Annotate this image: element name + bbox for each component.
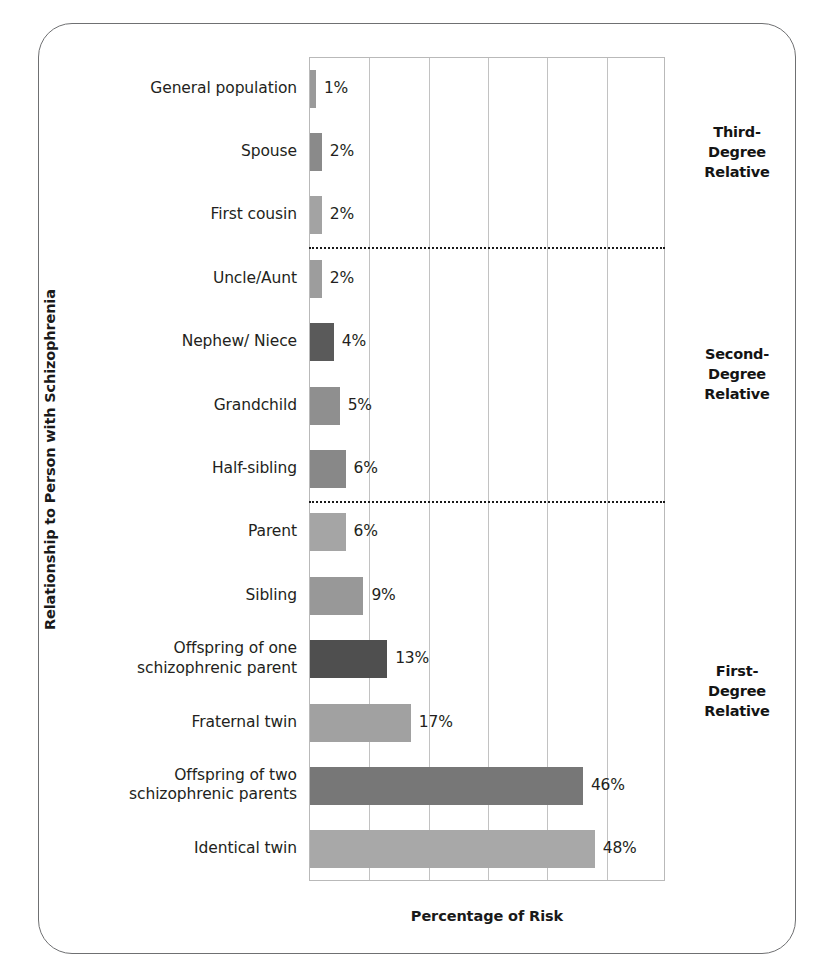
bar xyxy=(310,133,322,171)
group-label-line: Second- xyxy=(678,344,796,364)
bar xyxy=(310,323,334,361)
category-label: Offspring of twoschizophrenic parents xyxy=(0,766,297,805)
bar xyxy=(310,767,583,805)
category-label: Identical twin xyxy=(0,839,297,858)
bar xyxy=(310,640,387,678)
category-label: First cousin xyxy=(0,205,297,224)
bar-value-label: 5% xyxy=(348,396,372,414)
bar xyxy=(310,70,316,108)
group-label-line: Degree xyxy=(678,364,796,384)
group-label-line: Relative xyxy=(678,701,796,721)
bar-row: First cousin2% xyxy=(0,184,825,247)
bar-value-label: 2% xyxy=(330,269,354,287)
category-label: General population xyxy=(0,79,297,98)
bar xyxy=(310,830,595,868)
bar-value-label: 4% xyxy=(342,332,366,350)
category-label: Offspring of oneschizophrenic parent xyxy=(0,639,297,678)
group-separator xyxy=(309,501,665,503)
bar-row: Parent6% xyxy=(0,501,825,564)
bar xyxy=(310,387,340,425)
bar-row: Uncle/Aunt2% xyxy=(0,247,825,310)
category-label: Grandchild xyxy=(0,396,297,415)
bar-value-label: 13% xyxy=(395,649,429,667)
group-label-line: Third- xyxy=(678,122,796,142)
category-label: Half-sibling xyxy=(0,459,297,478)
category-label: Parent xyxy=(0,522,297,541)
bar-row: Sibling9% xyxy=(0,564,825,627)
bar-value-label: 2% xyxy=(330,205,354,223)
group-separator xyxy=(309,247,665,249)
category-label: Nephew/ Niece xyxy=(0,332,297,351)
group-label-line: First- xyxy=(678,661,796,681)
bar-row: General population1% xyxy=(0,57,825,120)
category-label: Uncle/Aunt xyxy=(0,269,297,288)
bar-row: Identical twin48% xyxy=(0,818,825,881)
bar xyxy=(310,260,322,298)
bar-value-label: 9% xyxy=(371,586,395,604)
bar-value-label: 17% xyxy=(419,713,453,731)
bar-row: Half-sibling6% xyxy=(0,437,825,500)
bar xyxy=(310,450,346,488)
bar-value-label: 48% xyxy=(603,839,637,857)
group-label-second-degree: Second-DegreeRelative xyxy=(678,344,796,404)
bar-value-label: 46% xyxy=(591,776,625,794)
group-label-first-degree: First-DegreeRelative xyxy=(678,661,796,721)
group-label-line: Degree xyxy=(678,142,796,162)
group-label-line: Relative xyxy=(678,162,796,182)
group-label-line: Degree xyxy=(678,681,796,701)
bar-row: Offspring of twoschizophrenic parents46% xyxy=(0,754,825,817)
group-label-third-degree: Third-DegreeRelative xyxy=(678,122,796,182)
bar xyxy=(310,513,346,551)
category-label: Fraternal twin xyxy=(0,713,297,732)
category-label: Spouse xyxy=(0,142,297,161)
bar-value-label: 6% xyxy=(354,522,378,540)
bar xyxy=(310,577,363,615)
bar-value-label: 6% xyxy=(354,459,378,477)
group-label-line: Relative xyxy=(678,384,796,404)
category-label: Sibling xyxy=(0,586,297,605)
bar-value-label: 1% xyxy=(324,79,348,97)
bar xyxy=(310,196,322,234)
bar-value-label: 2% xyxy=(330,142,354,160)
x-axis-title: Percentage of Risk xyxy=(309,908,665,924)
bar xyxy=(310,704,411,742)
